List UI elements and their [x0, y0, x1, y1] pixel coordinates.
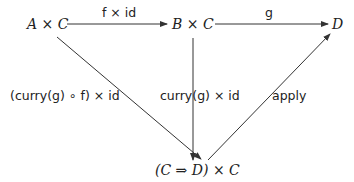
- label-g: g: [265, 5, 273, 20]
- object-b-times-c: B × C: [171, 16, 214, 32]
- object-a-times-c: A × C: [25, 16, 69, 32]
- object-d: D: [331, 16, 343, 32]
- object-exponential-times-c: (C ⇒ D) × C: [155, 162, 240, 178]
- label-curry-g-times-id: curry(g) × id: [160, 88, 240, 103]
- label-apply: apply: [272, 88, 307, 103]
- commutative-diagram: A × C B × C D (C ⇒ D) × C f × id g (curr…: [0, 0, 354, 182]
- label-curry-g-compose-f-times-id: (curry(g) ∘ f) × id: [10, 88, 120, 103]
- label-f-times-id: f × id: [102, 5, 136, 20]
